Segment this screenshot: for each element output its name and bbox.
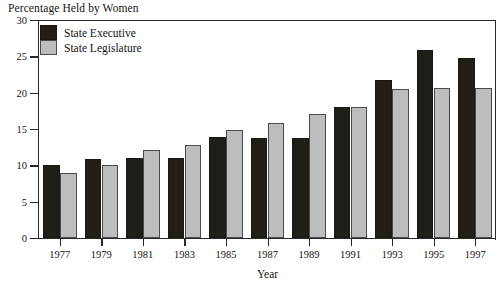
x-axis-tick-label: 1985 [215, 249, 236, 260]
y-axis-tick [30, 56, 39, 57]
y-axis-tick [30, 165, 39, 166]
bar-state-legislature [226, 130, 243, 238]
x-axis-tick [226, 238, 227, 246]
y-axis-tick [30, 202, 39, 203]
x-axis-tick-label: 1991 [340, 249, 361, 260]
chart-title: Percentage Held by Women [8, 2, 139, 14]
y-axis-tick-label: 25 [17, 51, 28, 62]
bar-state-legislature [434, 88, 451, 238]
bar-state-executive [375, 80, 392, 238]
x-axis-tick [392, 238, 393, 246]
x-axis-tick [184, 238, 185, 246]
x-axis-tick [434, 238, 435, 246]
x-axis-tick-label: 1995 [423, 249, 444, 260]
x-axis-tick [351, 238, 352, 246]
bar-state-executive [85, 159, 102, 238]
x-axis-tick-label: 1979 [91, 249, 112, 260]
bar-state-executive [458, 58, 475, 238]
bar-state-legislature [185, 145, 202, 238]
y-axis-tick [30, 93, 39, 94]
bar-state-executive [209, 137, 226, 238]
bar-state-executive [43, 165, 60, 238]
bar-chart: Percentage Held by Women 051015202530 19… [0, 0, 504, 283]
x-axis-tick [101, 238, 102, 246]
x-axis-tick-label: 1983 [174, 249, 195, 260]
legend-label-state-executive: State Executive [64, 27, 136, 39]
bar-state-executive [126, 158, 143, 238]
legend-swatch-state-legislature [40, 40, 57, 55]
x-axis-tick-label: 1993 [382, 249, 403, 260]
x-axis-tick [268, 238, 269, 246]
y-axis-tick-label: 10 [17, 160, 28, 171]
y-axis-tick-label: 30 [17, 15, 28, 26]
bar-state-executive [334, 107, 351, 238]
y-axis-tick [30, 129, 39, 130]
bar-state-legislature [268, 123, 285, 238]
bar-state-executive [417, 50, 434, 238]
legend-label-state-legislature: State Legislature [64, 42, 142, 54]
bar-state-legislature [351, 107, 368, 238]
x-axis-tick [143, 238, 144, 246]
bar-state-legislature [60, 173, 77, 238]
bar-state-executive [168, 158, 185, 238]
x-axis-tick [60, 238, 61, 246]
x-axis-tick-label: 1981 [132, 249, 153, 260]
y-axis-tick [30, 20, 39, 21]
x-axis-tick-label: 1997 [465, 249, 486, 260]
legend-swatch-state-executive [40, 25, 57, 40]
bar-state-executive [251, 138, 268, 238]
y-axis-tick-label: 20 [17, 87, 28, 98]
legend-item-state-legislature: State Legislature [40, 40, 142, 55]
bar-state-legislature [102, 165, 119, 238]
bar-state-legislature [143, 150, 160, 238]
x-axis-tick-label: 1987 [257, 249, 278, 260]
x-axis-tick [309, 238, 310, 246]
bar-state-executive [292, 138, 309, 238]
y-axis-tick [30, 238, 39, 239]
x-axis-tick-label: 1977 [49, 249, 70, 260]
bar-state-legislature [392, 89, 409, 238]
y-axis-tick-label: 0 [22, 233, 27, 244]
x-axis-title: Year [39, 268, 496, 280]
y-axis-tick-label: 15 [17, 124, 28, 135]
legend: State Executive State Legislature [40, 25, 142, 55]
bar-state-legislature [475, 88, 492, 238]
y-axis-tick-label: 5 [22, 196, 27, 207]
legend-item-state-executive: State Executive [40, 25, 142, 40]
bar-state-legislature [309, 114, 326, 238]
x-axis-tick [475, 238, 476, 246]
x-axis-tick-label: 1989 [299, 249, 320, 260]
